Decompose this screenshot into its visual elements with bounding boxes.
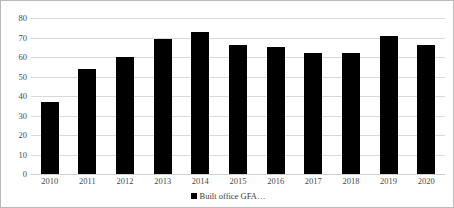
x-axis-tick-label: 2015	[230, 177, 247, 186]
bar-slot	[332, 18, 370, 174]
x-axis-tick-label: 2017	[305, 177, 322, 186]
bar	[417, 45, 435, 174]
y-axis-tick-label: 10	[19, 150, 28, 159]
bar-slot	[370, 18, 408, 174]
bar-slot	[294, 18, 332, 174]
bar-slot	[182, 18, 220, 174]
bar-slot	[31, 18, 69, 174]
x-axis-tick-label: 2013	[154, 177, 171, 186]
x-axis-tick-label: 2020	[418, 177, 435, 186]
x-axis: 2010201120122013201420152016201720182019…	[31, 177, 445, 189]
x-axis-tick-label: 2011	[79, 177, 96, 186]
gridline	[31, 174, 445, 175]
bar	[380, 36, 398, 174]
bar	[78, 69, 96, 174]
x-axis-tick-label: 2014	[192, 177, 209, 186]
x-axis-tick-label: 2012	[117, 177, 134, 186]
bar	[304, 53, 322, 174]
y-axis: 01020304050607080	[1, 18, 27, 174]
y-axis-tick-label: 40	[19, 92, 28, 101]
legend-label: Built office GFA…	[200, 192, 266, 201]
x-axis-tick-label: 2019	[380, 177, 397, 186]
y-axis-tick-label: 80	[19, 14, 28, 23]
y-axis-tick-label: 20	[19, 131, 28, 140]
bar	[154, 39, 172, 174]
bar-series	[31, 18, 445, 174]
y-axis-tick-label: 30	[19, 111, 28, 120]
chart-legend: Built office GFA…	[1, 192, 454, 201]
bar	[191, 32, 209, 174]
y-axis-tick-label: 50	[19, 72, 28, 81]
legend-swatch-icon	[191, 193, 197, 199]
bar	[116, 57, 134, 174]
bar-slot	[407, 18, 445, 174]
bar	[229, 45, 247, 174]
bar-slot	[219, 18, 257, 174]
bar	[342, 53, 360, 174]
bar-slot	[257, 18, 295, 174]
bar	[267, 47, 285, 174]
bar-slot	[69, 18, 107, 174]
y-axis-tick-label: 0	[23, 170, 27, 179]
bar-slot	[106, 18, 144, 174]
bar-slot	[144, 18, 182, 174]
x-axis-tick-label: 2016	[267, 177, 284, 186]
x-axis-tick-label: 2010	[41, 177, 58, 186]
bar-chart: 01020304050607080 2010201120122013201420…	[0, 0, 454, 208]
y-axis-tick-label: 60	[19, 53, 28, 62]
y-axis-tick-label: 70	[19, 33, 28, 42]
bar	[41, 102, 59, 174]
x-axis-tick-label: 2018	[342, 177, 359, 186]
